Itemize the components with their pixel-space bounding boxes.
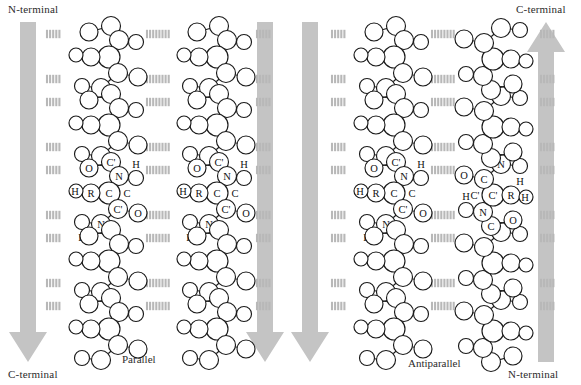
atom-circle <box>513 23 528 38</box>
atom-label: O <box>242 208 250 219</box>
atom-label: C' <box>107 157 116 168</box>
residue-unit <box>177 289 255 370</box>
atom-circle <box>80 295 98 313</box>
atom-circle <box>459 339 474 354</box>
hydrogen-bond <box>332 234 344 242</box>
atom-circle <box>237 68 255 86</box>
atom-label: C' <box>222 204 231 215</box>
antiparallel-strand-2: CONC'RCONHHHC' <box>455 19 533 372</box>
atom-circle <box>354 48 368 62</box>
hydrogen-bond <box>432 211 454 219</box>
atom-circle <box>502 254 520 272</box>
residue-unit <box>69 289 147 370</box>
hydrogen-bond <box>147 211 169 219</box>
atom-circle <box>177 116 191 130</box>
atom-label: O <box>419 208 427 219</box>
atom-circle <box>455 302 473 320</box>
hydrogen-bond <box>432 30 454 38</box>
atom-circle <box>183 351 198 366</box>
atom-label: C <box>213 188 220 199</box>
atom-label: C' <box>392 157 401 168</box>
atom-circle <box>414 171 429 186</box>
atom-circle <box>455 234 473 252</box>
atom-circle <box>475 306 494 325</box>
atom-circle <box>394 64 413 83</box>
atom-circle <box>504 143 522 161</box>
hydrogen-bond <box>332 75 344 83</box>
beta-sheet-svg: C'ONCRC'ONHHHCC'ONCRC'ONHHHCC'ONCRC'ONHH… <box>0 0 581 385</box>
atom-circle <box>69 48 83 62</box>
atom-circle <box>455 98 473 116</box>
atom-circle <box>354 320 368 334</box>
atom-label: O <box>134 208 142 219</box>
atom-circle <box>414 136 432 154</box>
atom-circle <box>109 336 128 355</box>
atom-circle <box>188 23 206 41</box>
hydrogen-bond <box>47 234 59 242</box>
hydrogen-bond <box>147 166 169 174</box>
atom-circle <box>365 227 383 245</box>
atom-circle <box>519 326 533 340</box>
hydrogen-bond <box>147 302 169 310</box>
atom-label: R <box>507 190 514 201</box>
atom-label: H <box>521 192 529 203</box>
atom-circle <box>82 252 100 270</box>
atom-circle <box>217 336 236 355</box>
atom-circle <box>377 351 396 370</box>
antiparallel-strand-1: C'ONCRC'ONHHHC <box>354 17 432 370</box>
atom-circle <box>80 91 98 109</box>
atom-circle <box>502 118 520 136</box>
atom-label: H <box>417 159 425 170</box>
atom-circle <box>394 132 413 151</box>
atom-circle <box>519 54 533 68</box>
figure-canvas: N-terminal C-terminal Parallel C-termina… <box>0 0 581 385</box>
atom-circle <box>177 320 191 334</box>
atom-circle <box>129 136 147 154</box>
atom-circle <box>414 340 432 358</box>
atom-circle <box>69 320 83 334</box>
atom-circle <box>109 64 128 83</box>
atom-label: C' <box>399 204 408 215</box>
hydrogen-bond <box>332 98 344 106</box>
atom-label: H <box>71 186 79 197</box>
atom-circle <box>190 252 208 270</box>
structure-drawing: C'ONCRC'ONHHHCC'ONCRC'ONHHHCC'ONCRC'ONHH… <box>0 0 581 385</box>
atom-circle <box>129 35 144 50</box>
atom-circle <box>354 252 368 266</box>
atom-circle <box>129 340 147 358</box>
atom-circle <box>237 272 255 290</box>
atom-label: H <box>179 186 187 197</box>
atom-label: H <box>240 159 248 170</box>
atom-circle <box>92 351 111 370</box>
atom-circle <box>82 320 100 338</box>
hydrogen-bond <box>147 98 169 106</box>
atom-label: C <box>390 188 397 199</box>
atom-circle <box>200 351 219 370</box>
residue-unit <box>354 289 432 370</box>
hydrogen-bond <box>147 234 169 242</box>
atom-label: C <box>408 188 415 199</box>
atom-circle <box>69 252 83 266</box>
atom-label: N <box>400 171 408 182</box>
atom-circle <box>129 171 144 186</box>
atom-circle <box>129 307 144 322</box>
atom-circle <box>414 35 429 50</box>
atom-circle <box>504 75 522 93</box>
atom-label: O <box>509 215 517 226</box>
atom-label: C' <box>489 190 498 201</box>
hydrogen-bond <box>332 30 344 38</box>
atom-label: C <box>123 188 130 199</box>
hydrogen-bond <box>432 279 454 287</box>
atom-circle <box>188 91 206 109</box>
atom-circle <box>414 307 429 322</box>
atom-circle <box>475 34 494 53</box>
atom-circle <box>237 35 252 50</box>
hydrogen-bond <box>47 143 59 151</box>
atom-circle <box>459 67 474 82</box>
atom-circle <box>177 48 191 62</box>
atom-label: C <box>105 188 112 199</box>
atom-label: O <box>370 163 378 174</box>
hydrogen-bond <box>432 166 454 174</box>
atom-circle <box>80 227 98 245</box>
atom-circle <box>504 279 522 297</box>
